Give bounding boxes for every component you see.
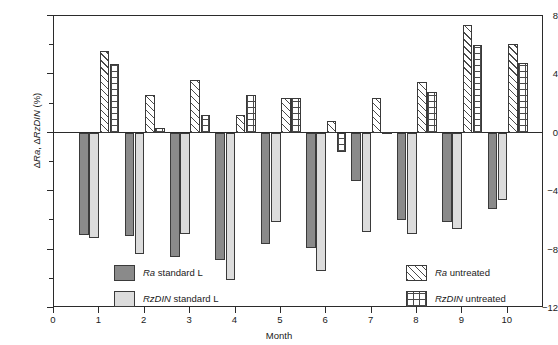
bar bbox=[190, 80, 200, 133]
y-axis bbox=[0, 0, 53, 345]
y-tick-label: 8 bbox=[512, 10, 558, 21]
x-axis-title: Month bbox=[0, 330, 558, 341]
legend-standard-item: RzDIN standard L bbox=[114, 290, 219, 307]
bar bbox=[306, 133, 316, 248]
legend-label: RzDIN standard L bbox=[143, 293, 219, 304]
bar bbox=[452, 133, 462, 229]
bar bbox=[463, 25, 473, 133]
bar bbox=[382, 132, 392, 134]
bar bbox=[473, 45, 483, 133]
y-tick-minor bbox=[49, 103, 53, 104]
x-tick bbox=[416, 307, 417, 313]
legend-swatch-icon bbox=[114, 265, 135, 281]
y-tick-minor bbox=[49, 219, 53, 220]
bar bbox=[351, 133, 361, 181]
legend-label-symbol: Ra bbox=[143, 267, 155, 278]
x-tick-label: 5 bbox=[277, 314, 282, 325]
legend-standard-item: Ra standard L bbox=[114, 264, 219, 281]
y-tick bbox=[47, 15, 53, 16]
x-tick-label: 7 bbox=[368, 314, 373, 325]
legend-swatch-icon bbox=[114, 291, 135, 307]
bar bbox=[508, 44, 518, 133]
bar bbox=[215, 133, 225, 260]
bar bbox=[79, 133, 89, 235]
y-tick-minor bbox=[49, 44, 53, 45]
x-tick bbox=[325, 307, 326, 313]
bar bbox=[89, 133, 99, 238]
x-tick bbox=[461, 307, 462, 313]
chart-figure: ΔRa, ΔRzDIN (%) Ra standard LRzDIN stand… bbox=[0, 0, 558, 345]
bar bbox=[226, 133, 236, 280]
bar bbox=[442, 133, 452, 222]
x-tick bbox=[189, 307, 190, 313]
legend-untreated-item: Ra untreated bbox=[406, 264, 506, 281]
bar bbox=[180, 133, 190, 234]
x-tick-label: 9 bbox=[459, 314, 464, 325]
bar bbox=[362, 133, 372, 232]
x-tick-label: 1 bbox=[96, 314, 101, 325]
bar bbox=[271, 133, 281, 222]
legend-label-text: standard L bbox=[171, 293, 219, 304]
bar bbox=[372, 98, 382, 133]
bar bbox=[498, 133, 508, 200]
bar bbox=[201, 115, 211, 133]
bar bbox=[337, 133, 347, 152]
x-tick-label: 2 bbox=[141, 314, 146, 325]
x-tick-label: 0 bbox=[50, 314, 55, 325]
x-tick bbox=[53, 307, 54, 313]
y-tick-minor bbox=[49, 161, 53, 162]
x-tick bbox=[280, 307, 281, 313]
bar bbox=[135, 133, 145, 254]
y-tick bbox=[47, 132, 53, 133]
legend-label-text: untreated bbox=[447, 267, 490, 278]
bar bbox=[281, 98, 291, 133]
bar bbox=[397, 133, 407, 221]
bar bbox=[417, 82, 427, 133]
legend-label-symbol: RzDIN bbox=[143, 293, 171, 304]
bar bbox=[488, 133, 498, 209]
x-tick-label: 8 bbox=[413, 314, 418, 325]
y-tick-label: 0 bbox=[512, 126, 558, 137]
y-tick-minor bbox=[49, 278, 53, 279]
bar bbox=[125, 133, 135, 237]
x-tick-label: 4 bbox=[232, 314, 237, 325]
x-tick bbox=[371, 307, 372, 313]
bar bbox=[261, 133, 271, 244]
x-tick-label: 10 bbox=[501, 314, 512, 325]
y-tick-label: −12 bbox=[512, 302, 558, 313]
legend-label-symbol: Ra bbox=[435, 267, 447, 278]
y-tick bbox=[47, 73, 53, 74]
bar bbox=[155, 128, 165, 132]
legend-swatch-icon bbox=[406, 265, 427, 281]
bar bbox=[170, 133, 180, 257]
y-tick-label: −4 bbox=[512, 185, 558, 196]
bar bbox=[316, 133, 326, 272]
x-tick bbox=[98, 307, 99, 313]
legend-label: Ra untreated bbox=[435, 267, 490, 278]
bar bbox=[427, 92, 437, 133]
bar bbox=[100, 51, 110, 133]
y-tick bbox=[47, 190, 53, 191]
x-tick bbox=[507, 307, 508, 313]
legend-standard: Ra standard LRzDIN standard L bbox=[114, 264, 219, 316]
x-tick bbox=[144, 307, 145, 313]
bar bbox=[246, 95, 256, 133]
plot-area: Ra standard LRzDIN standard L Ra untreat… bbox=[53, 15, 543, 307]
legend-untreated-item: RzDIN untreated bbox=[406, 290, 506, 307]
y-tick-label: −8 bbox=[512, 243, 558, 254]
legend-label: Ra standard L bbox=[143, 267, 203, 278]
y-tick bbox=[47, 249, 53, 250]
legend-label-text: untreated bbox=[463, 293, 506, 304]
x-tick bbox=[235, 307, 236, 313]
bar bbox=[110, 64, 120, 133]
bar bbox=[327, 121, 337, 133]
bar bbox=[291, 98, 301, 133]
y-tick-label: 4 bbox=[512, 68, 558, 79]
bar bbox=[145, 95, 155, 133]
legend-label-text: standard L bbox=[155, 267, 203, 278]
legend-label-symbol: RzDIN bbox=[435, 293, 463, 304]
x-tick-label: 3 bbox=[186, 314, 191, 325]
legend-swatch-icon bbox=[406, 291, 427, 307]
x-tick-label: 6 bbox=[323, 314, 328, 325]
legend-label: RzDIN untreated bbox=[435, 293, 506, 304]
